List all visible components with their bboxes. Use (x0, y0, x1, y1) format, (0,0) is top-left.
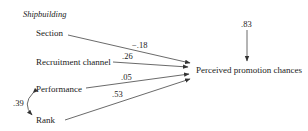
residual-value: .83 (241, 19, 252, 29)
arrow-recruitment-to-outcome (113, 62, 188, 67)
coefficient-performance: .05 (121, 72, 132, 82)
coefficient-recruitment-channel: .26 (122, 51, 133, 61)
arrow-performance-to-outcome (86, 74, 189, 88)
predictor-rank: Rank (36, 115, 55, 125)
predictor-performance: Performance (36, 84, 82, 94)
predictor-section: Section (36, 28, 63, 38)
correlation-value: .39 (13, 98, 24, 108)
outcome-label: Perceived promotion chances (196, 65, 302, 75)
predictor-recruitment-channel: Recruitment channel (36, 57, 111, 67)
diagram-title: Shipbuilding (23, 9, 66, 19)
correlation-curve (27, 93, 33, 115)
arrow-rank-to-outcome (65, 79, 190, 120)
coefficient-section: −.18 (132, 40, 147, 50)
coefficient-rank: .53 (112, 89, 123, 99)
